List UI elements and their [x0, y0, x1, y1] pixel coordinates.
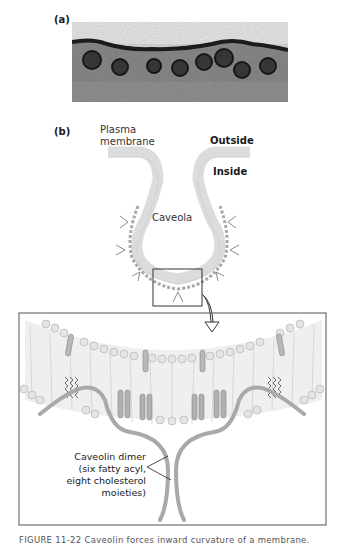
caveola-label: Caveola — [152, 212, 192, 224]
caveolin-dimer-callout: Caveolin dimer (six fatty acyl, eight ch… — [50, 451, 146, 499]
callout-line-3: eight cholesterol — [50, 475, 146, 487]
callout-line-2: (six fatty acyl, — [50, 463, 146, 475]
figure-caption: FIGURE 11-22 Caveolin forces inward curv… — [19, 535, 310, 545]
callout-line-1: Caveolin dimer — [50, 451, 146, 463]
callout-line-4: moieties) — [50, 487, 146, 499]
